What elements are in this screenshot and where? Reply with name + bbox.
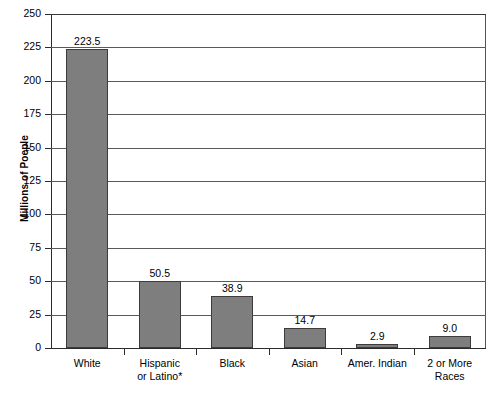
x-axis-tick	[196, 348, 197, 355]
bar	[66, 49, 108, 348]
y-axis-tick	[45, 214, 51, 215]
y-axis-tick-label: 75	[0, 242, 41, 252]
bar	[211, 296, 253, 348]
bar-value-label: 50.5	[130, 268, 190, 279]
y-axis-tick-label: 200	[0, 75, 41, 85]
x-axis-category-label: 2 or MoreRaces	[395, 357, 498, 382]
y-axis-tick	[45, 181, 51, 182]
category-label-line: Black	[219, 357, 245, 369]
y-axis-tick	[45, 281, 51, 282]
x-axis-tick	[124, 348, 125, 355]
y-axis-tick	[45, 81, 51, 82]
y-axis-tick	[45, 348, 51, 349]
y-axis-tick-label: 25	[0, 309, 41, 319]
category-label-line: Races	[435, 370, 465, 382]
bar	[356, 344, 398, 348]
x-axis-tick	[341, 348, 342, 355]
bar-value-label: 223.5	[57, 36, 117, 47]
bar-value-label: 14.7	[275, 315, 335, 326]
x-axis-tick	[414, 348, 415, 355]
gridline	[51, 281, 486, 282]
y-axis-tick-label: 225	[0, 41, 41, 51]
y-axis-tick	[45, 14, 51, 15]
bar-value-label: 2.9	[347, 331, 407, 342]
y-axis-tick-label: 100	[0, 208, 41, 218]
category-label-line: Hispanic	[140, 357, 180, 369]
category-label-line: 2 or More	[427, 357, 472, 369]
bar-value-label: 38.9	[202, 283, 262, 294]
category-label-line: Asian	[292, 357, 318, 369]
figure-caption	[14, 387, 484, 394]
y-axis-tick	[45, 47, 51, 48]
category-label-line: White	[74, 357, 101, 369]
gridline	[51, 114, 486, 115]
category-label-line: or Latino*	[137, 370, 182, 382]
bar	[139, 281, 181, 348]
y-axis-tick-label: 125	[0, 175, 41, 185]
gridline	[51, 47, 486, 48]
y-axis-tick-label: 175	[0, 108, 41, 118]
bar-chart-figure: Millions of Poeple 250225200175150125100…	[0, 0, 498, 394]
bar-value-label: 9.0	[420, 323, 480, 334]
y-axis-tick-label: 150	[0, 142, 41, 152]
x-axis-tick	[269, 348, 270, 355]
y-axis-tick	[45, 248, 51, 249]
y-axis-tick	[45, 114, 51, 115]
gridline	[51, 148, 486, 149]
gridline	[51, 81, 486, 82]
gridline	[51, 214, 486, 215]
gridline	[51, 248, 486, 249]
y-axis-tick-label: 250	[0, 8, 41, 18]
bar	[284, 328, 326, 348]
y-axis-tick	[45, 315, 51, 316]
gridline	[51, 14, 486, 15]
y-axis-tick	[45, 148, 51, 149]
y-axis-tick-label: 0	[0, 342, 41, 352]
y-axis-tick-label: 50	[0, 275, 41, 285]
bar	[429, 336, 471, 348]
gridline	[51, 181, 486, 182]
gridline	[51, 315, 486, 316]
